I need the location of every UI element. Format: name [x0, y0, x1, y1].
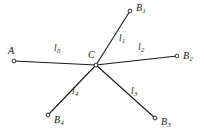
node-label-b3-sub: 3 — [167, 121, 170, 128]
node-marker-b4 — [46, 113, 50, 117]
node-label-c: C — [88, 50, 95, 60]
node-label-b1-sub: 1 — [142, 7, 145, 14]
edge-label-l3-sub: 3 — [134, 90, 137, 97]
node-label-b4: B4 — [54, 115, 64, 125]
edge-label-l2-sub: 2 — [141, 46, 144, 53]
node-marker-a — [12, 59, 16, 63]
node-marker-b1 — [128, 9, 132, 13]
node-label-c-text: C — [88, 49, 95, 60]
node-label-b3: B3 — [161, 117, 171, 127]
node-marker-b2 — [175, 54, 179, 58]
edge-l3 — [96, 65, 155, 118]
edge-label-l3: l3 — [131, 87, 137, 97]
edge-label-l1: l1 — [119, 34, 125, 44]
node-label-b1: B1 — [136, 3, 146, 13]
node-label-a: A — [8, 46, 14, 56]
node-marker-c — [94, 63, 98, 67]
node-label-b4-sub: 4 — [60, 119, 63, 126]
figure-canvas: A C B1 B2 B3 B4 l0 l1 l2 l3 l4 — [0, 0, 204, 137]
edge-label-l4: l4 — [72, 87, 78, 97]
edge-label-l2: l2 — [138, 43, 144, 53]
node-label-b2: B2 — [183, 51, 193, 61]
star-graph-svg — [0, 0, 204, 137]
edge-label-l0-sub: 0 — [57, 47, 60, 54]
node-marker-group — [12, 9, 179, 120]
edge-label-l4-sub: 4 — [75, 90, 78, 97]
node-label-b2-sub: 2 — [189, 55, 192, 62]
node-label-a-text: A — [8, 45, 14, 56]
edge-label-l1-sub: 1 — [122, 37, 125, 44]
edge-l2 — [96, 56, 177, 65]
node-marker-b3 — [153, 116, 157, 120]
edge-l0 — [14, 61, 96, 65]
edge-label-l0: l0 — [54, 44, 60, 54]
